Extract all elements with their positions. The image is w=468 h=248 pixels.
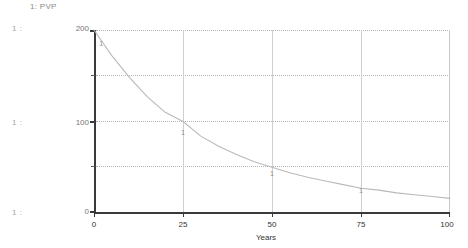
series-tag-bottom: 1 : — [12, 208, 22, 217]
plot-area: 1 1 1 1 0 25 50 75 100 Years — [94, 30, 450, 213]
series-line-pvp — [94, 30, 450, 213]
point-marker-1-b: 1 — [181, 129, 185, 136]
series-tag-top: 1 : — [12, 24, 22, 33]
series-tag-middle: 1 : — [12, 118, 22, 127]
chart-container: 1: PVP 1 : 1 : 1 : 200 100 0 — [0, 0, 468, 248]
point-marker-1-a: 1 — [99, 39, 103, 46]
x-axis-label-100: 100 — [440, 220, 453, 229]
x-axis-label-25: 25 — [179, 220, 188, 229]
legend-entry-pvp: 1: PVP — [30, 2, 57, 11]
point-marker-1-c: 1 — [270, 169, 274, 176]
x-axis-label-75: 75 — [357, 220, 366, 229]
x-axis-label-0: 0 — [92, 220, 96, 229]
x-axis-label-50: 50 — [268, 220, 277, 229]
y-axis-label-0: 0 — [55, 207, 89, 216]
chart-legend: 1: PVP — [30, 2, 57, 11]
y-axis-label-200: 200 — [55, 24, 89, 33]
y-axis-label-100: 100 — [55, 118, 89, 127]
x-axis-title: Years — [256, 233, 276, 242]
point-marker-1-d: 1 — [359, 187, 363, 194]
